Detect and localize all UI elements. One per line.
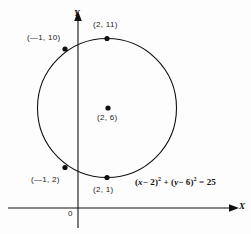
eq-equals: =	[197, 177, 207, 187]
circle-equation-annotation: (x− 2)2 + (y− 6)2 = 25	[135, 177, 216, 187]
point-marker-top	[104, 36, 109, 41]
point-label-center: (2, 6)	[97, 113, 117, 122]
point-marker-lower-left	[62, 165, 67, 170]
y-axis-label: Y	[74, 8, 80, 18]
point-marker-bottom	[104, 175, 109, 180]
circle-equation-diagram: (2, 11) (—1, 10) (2, 6) (—1, 2) (2, 1) Y…	[0, 0, 251, 234]
point-marker-center	[105, 105, 110, 110]
point-label-bottom: (2, 1)	[93, 185, 113, 194]
point-label-upper-left: (—1, 10)	[27, 33, 61, 42]
origin-label: 0	[68, 209, 72, 218]
point-marker-upper-left	[62, 46, 67, 51]
eq-rhs: 25	[207, 177, 216, 187]
point-label-top: (2, 11)	[93, 20, 118, 29]
eq-term-2: − 6	[178, 177, 190, 187]
eq-term-1: − 2	[143, 177, 155, 187]
x-axis	[8, 204, 239, 212]
x-axis-label: X	[239, 201, 245, 211]
point-label-lower-left: (—1, 2)	[31, 175, 60, 184]
eq-plus: +	[161, 177, 171, 187]
